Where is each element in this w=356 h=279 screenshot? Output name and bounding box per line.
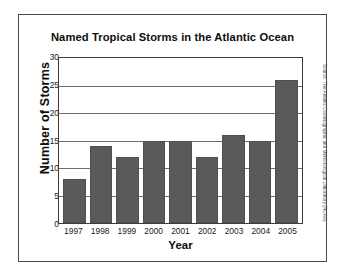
bar — [275, 80, 297, 223]
figure-frame: Named Tropical Storms in the Atlantic Oc… — [18, 14, 327, 262]
y-tick-label: 0 — [39, 220, 59, 228]
bar — [196, 157, 218, 223]
bar — [63, 179, 85, 223]
x-tick-label: 1998 — [89, 226, 112, 236]
y-axis-tick-labels: 302520151050 — [39, 57, 59, 224]
bar — [143, 141, 165, 224]
bar-series — [59, 58, 302, 223]
x-axis-title: Year — [58, 239, 303, 251]
bar — [249, 141, 271, 224]
source-credit: Source: The Atlantic Oceanographic and M… — [322, 64, 327, 264]
bar — [169, 141, 191, 224]
bar — [116, 157, 138, 223]
x-tick-label: 2005 — [276, 226, 299, 236]
x-tick-label: 2002 — [196, 226, 219, 236]
chart-title: Named Tropical Storms in the Atlantic Oc… — [19, 31, 326, 43]
x-tick-label: 2000 — [142, 226, 165, 236]
x-tick-label: 2001 — [169, 226, 192, 236]
y-tick-label: 25 — [39, 81, 59, 89]
bar — [90, 146, 112, 223]
y-tick-label: 10 — [39, 164, 59, 172]
x-tick-label: 1999 — [116, 226, 139, 236]
x-tick-label: 2004 — [249, 226, 272, 236]
x-tick-label: 2003 — [223, 226, 246, 236]
y-tick-label: 15 — [39, 136, 59, 144]
bar — [222, 135, 244, 223]
y-tick-label: 5 — [39, 192, 59, 200]
y-tick-label: 20 — [39, 108, 59, 116]
plot-area — [58, 57, 303, 224]
x-tick-label: 1997 — [62, 226, 85, 236]
y-tick-label: 30 — [39, 53, 59, 61]
x-axis-tick-labels: 199719981999200020012002200320042005 — [58, 226, 303, 236]
